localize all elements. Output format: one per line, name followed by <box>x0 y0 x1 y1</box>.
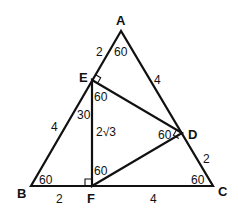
point-label-c: C <box>218 184 228 199</box>
point-label-e: E <box>79 70 88 85</box>
angle-label-d: 60 <box>158 128 172 142</box>
segment-label-ef: 2√3 <box>96 125 116 139</box>
point-label-f: F <box>87 191 95 206</box>
point-label-d: D <box>188 127 197 142</box>
segment-label-ad: 4 <box>154 73 161 87</box>
angle-label-b: 60 <box>39 173 53 187</box>
segment-label-eb: 4 <box>51 120 58 134</box>
angle-label-c: 60 <box>191 173 205 187</box>
triangle-diagram: A E B F C D 2 4 4 2 2 4 2√3 60 60 60 60 … <box>0 0 238 214</box>
angle-label-f: 60 <box>94 164 108 178</box>
segment-label-dc: 2 <box>203 152 210 166</box>
segment-label-fc: 4 <box>150 192 157 206</box>
angle-label-e-left: 30 <box>77 108 91 122</box>
point-label-a: A <box>116 13 126 28</box>
angle-label-e-lower: 60 <box>94 90 108 104</box>
angle-label-a: 60 <box>114 45 128 59</box>
segment-label-ae: 2 <box>96 45 103 59</box>
point-label-b: B <box>17 186 26 201</box>
segment-label-bf: 2 <box>56 192 63 206</box>
